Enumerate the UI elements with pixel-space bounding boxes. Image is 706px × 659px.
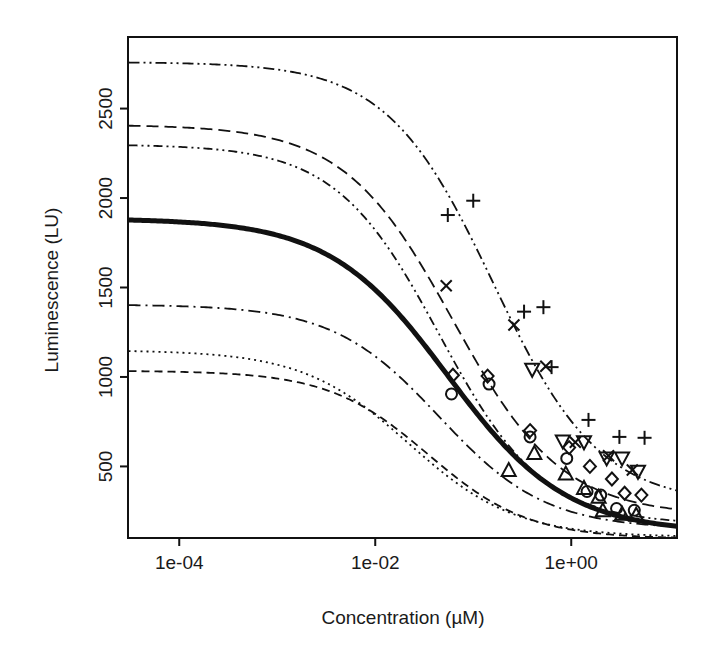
data-point-plus [441,208,455,222]
data-point-plus [638,431,652,445]
data-point-x [508,320,519,331]
data-point-plus [581,413,595,427]
y-tick-label: 2000 [95,177,116,219]
plot-frame [128,37,677,538]
data-point-triangle-down [631,466,645,479]
data-point-triangle-down [615,452,629,465]
data-point-diamond [635,489,647,502]
data-point-circle [561,453,572,464]
curve-subject-4-fit [129,305,677,526]
data-point-circle [446,388,457,399]
y-axis: 5001000150020002500 [95,87,128,482]
chart-figure: 1e-041e-021e+00 5001000150020002500 Conc… [0,0,706,659]
x-axis-title: Concentration (µM) [321,607,484,628]
curve-subject-6-fit [129,371,677,537]
data-point-plus [517,305,531,319]
dose-response-plot: 1e-041e-021e+00 5001000150020002500 Conc… [0,0,706,659]
plot-curves-layer [129,63,677,538]
data-point-plus [536,300,550,314]
data-point-diamond [584,460,596,473]
x-tick-label: 1e+00 [545,552,598,573]
y-tick-label: 2500 [95,87,116,129]
y-tick-label: 500 [95,451,116,483]
curve-subject-1-fit [129,63,677,491]
x-tick-label: 1e-02 [351,552,400,573]
x-axis: 1e-041e-021e+00 [155,538,598,573]
data-point-diamond [619,487,631,500]
data-point-diamond [606,473,618,486]
data-point-plus [466,194,480,208]
plot-points-layer [441,194,652,521]
data-point-plus [612,430,626,444]
data-point-triangle-up [502,463,516,476]
y-tick-label: 1500 [95,266,116,308]
y-axis-title: Luminescence (LU) [41,208,62,373]
point-group-triangle-down [525,364,645,479]
x-tick-label: 1e-04 [155,552,204,573]
y-tick-label: 1000 [95,356,116,398]
point-group-x [441,280,638,475]
data-point-x [441,280,452,291]
